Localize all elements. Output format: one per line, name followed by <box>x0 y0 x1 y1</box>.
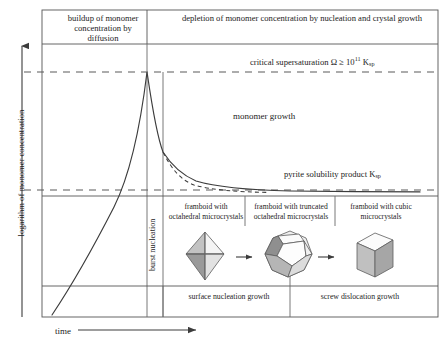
monomer-concentration-curve-dashed <box>163 152 268 192</box>
mechanism-label-surface-nucleation: surface nucleation growth <box>169 292 289 301</box>
y-axis-label: logarithm of monomer concentration <box>16 68 26 278</box>
crystal-octahedron-icon <box>186 232 224 280</box>
crystal-truncated-octahedron-icon <box>265 231 312 277</box>
crystal-caption-octahedron: framboid with octahedral microcrystals <box>168 202 244 222</box>
x-axis-label: time <box>55 326 71 337</box>
critical-supersaturation-label: critical supersaturation Ω ≥ 1011 Ksp <box>250 55 375 68</box>
header-right-phase-label: depletion of monomer concentration by nu… <box>166 13 438 23</box>
mechanism-label-screw-dislocation: screw dislocation growth <box>300 292 420 301</box>
ksp-subscript: sp <box>375 172 381 179</box>
crystal-caption-truncated-octahedron: framboid with truncated octahedral micro… <box>248 202 334 222</box>
crystal-caption-cube: framboid with cubic microcrystals <box>340 202 422 222</box>
header-left-phase-label: buildup of monomer concentration by diff… <box>60 13 146 43</box>
monomer-concentration-curve <box>52 72 420 315</box>
ksp-label: pyrite solubility product Ksp <box>284 169 381 180</box>
figure-canvas: buildup of monomer concentration by diff… <box>0 0 440 352</box>
critical-supersaturation-text: critical supersaturation <box>250 57 331 67</box>
critical-unit-subscript: sp <box>369 60 375 67</box>
critical-unit-text: K <box>361 57 369 67</box>
critical-relation-text: ≥ 10 <box>337 57 355 67</box>
crystal-cube-icon <box>357 233 393 277</box>
monomer-growth-label: monomer growth <box>233 111 295 122</box>
ksp-text: pyrite solubility product K <box>284 169 375 179</box>
burst-nucleation-label: burst nucleation <box>148 203 158 287</box>
